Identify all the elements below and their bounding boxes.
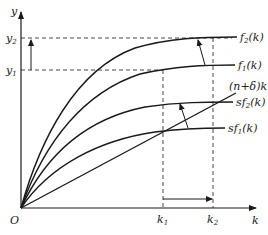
solow-model-diagram: y k O y2 y1 k1 k2 f2(k) f1(k) (n+δ)k sf2… <box>0 0 268 235</box>
y2-label: y2 <box>5 32 17 46</box>
sf1-label: sf1(k) <box>228 122 257 136</box>
f-shift-arrow <box>198 40 205 65</box>
k2-label: k2 <box>207 213 219 227</box>
x-axis-label: k <box>252 214 259 227</box>
curve-f1 <box>21 65 235 208</box>
sf-shift-arrow <box>180 104 188 128</box>
break-even-label: (n+δ)k <box>229 80 268 93</box>
sf2-label: sf2(k) <box>236 96 265 110</box>
line-break-even <box>21 93 236 208</box>
diagram-canvas: y k O y2 y1 k1 k2 f2(k) f1(k) (n+δ)k sf2… <box>0 0 268 235</box>
y1-label: y1 <box>5 64 17 78</box>
origin-label: O <box>10 214 19 227</box>
y-axis-label: y <box>10 5 18 18</box>
f2-label: f2(k) <box>239 31 264 45</box>
f1-label: f1(k) <box>237 59 262 73</box>
k1-label: k1 <box>157 213 168 227</box>
curve-sf2 <box>21 102 233 208</box>
dashed-guides <box>21 38 232 208</box>
curve-sf1 <box>21 128 225 208</box>
